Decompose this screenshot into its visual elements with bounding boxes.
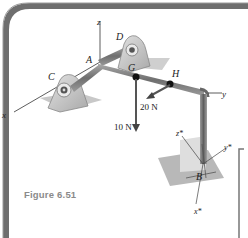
axis-y-label: y (221, 89, 226, 99)
force-10n-arrow (132, 79, 140, 132)
force-20n-label: 20 N (140, 102, 158, 112)
point-a-label: A (85, 54, 93, 65)
point-g-label: G (128, 62, 135, 73)
point-b-label: B (196, 171, 202, 182)
force-20n-arrow (146, 85, 170, 99)
force-10n-label: 10 N (114, 122, 132, 132)
axis-z-label: z (96, 17, 101, 27)
point-c-label: C (48, 71, 55, 82)
figure-caption: Figure 6.51 (24, 189, 76, 200)
point-h-label: H (171, 68, 180, 79)
axis-x-star-label: x* (193, 207, 202, 216)
frame-border (3, 3, 248, 238)
axis-y-star-label: y* (223, 143, 232, 152)
axis-z-star-label: z* (175, 129, 183, 138)
point-d-label: D (115, 31, 124, 42)
figure-panel: z x y A D C G H B 20 N 10 N z* y* x* (0, 0, 248, 238)
side-bracket (239, 149, 244, 238)
axis-x-label: x (1, 110, 6, 120)
